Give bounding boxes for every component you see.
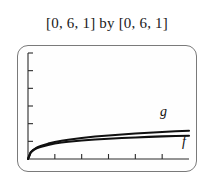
figure-container: [0, 6, 1] by [0, 6, 1] g f <box>0 0 214 187</box>
plot-area <box>17 45 197 172</box>
plot-title: [0, 6, 1] by [0, 6, 1] <box>0 15 214 32</box>
curve-label-g: g <box>160 104 167 120</box>
curve-label-f: f <box>182 134 186 150</box>
